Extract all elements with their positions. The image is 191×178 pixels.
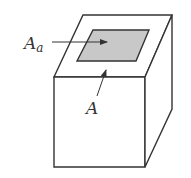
cube-diagram: Aa A bbox=[0, 0, 191, 178]
label-apparent-area: Aa bbox=[22, 33, 43, 55]
label-real-area: A bbox=[84, 98, 98, 118]
cube-front-face bbox=[54, 77, 145, 167]
